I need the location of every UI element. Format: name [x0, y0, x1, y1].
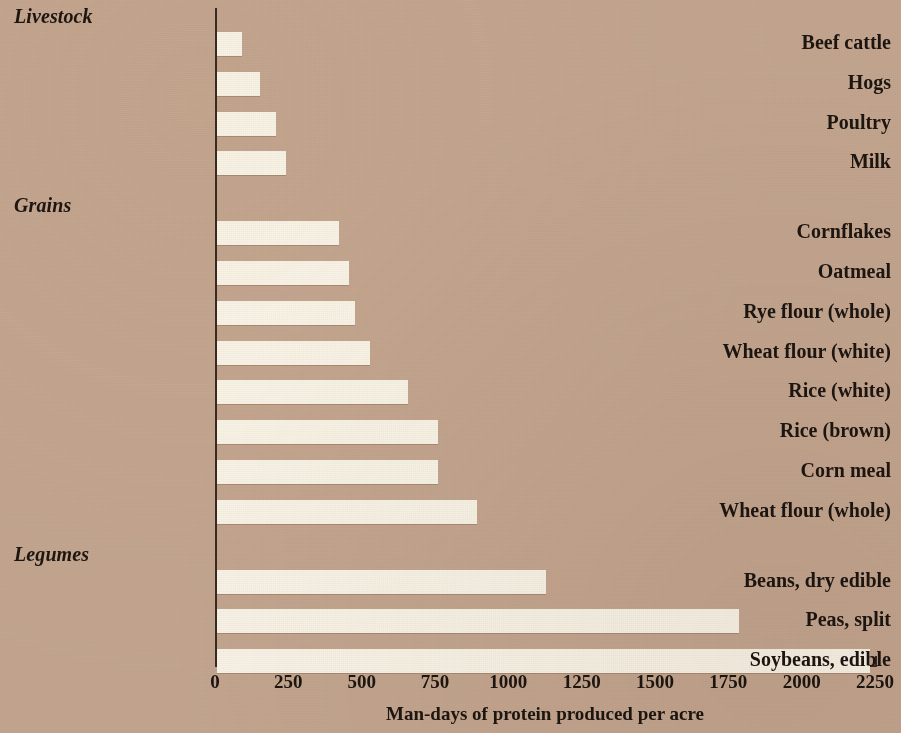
x-axis-tick-label: 1250 [563, 671, 601, 693]
group-header-legumes: Legumes [14, 543, 89, 566]
x-axis-tick-label: 1750 [709, 671, 747, 693]
category-label: Corn meal [696, 459, 901, 482]
category-label: Rye flour (whole) [696, 300, 901, 323]
group-header-livestock: Livestock [14, 5, 93, 28]
category-label: Hogs [696, 71, 901, 94]
category-label: Oatmeal [696, 260, 901, 283]
bar [217, 500, 477, 524]
bar [217, 380, 408, 404]
category-label: Cornflakes [696, 220, 901, 243]
category-label: Rice (brown) [696, 419, 901, 442]
category-label: Poultry [696, 111, 901, 134]
category-label: Rice (white) [696, 379, 901, 402]
bar [217, 420, 438, 444]
bar [217, 570, 546, 594]
y-axis-line [215, 8, 217, 665]
x-axis-tick-label: 2000 [783, 671, 821, 693]
x-axis-tick-label: 0 [210, 671, 220, 693]
category-label: Soybeans, edible [696, 648, 901, 671]
bar [217, 72, 260, 96]
bar [217, 32, 242, 56]
x-axis-tick-label: 2250 [856, 671, 894, 693]
category-label: Peas, split [696, 608, 901, 631]
x-axis-tick-label: 750 [421, 671, 450, 693]
category-label: Wheat flour (whole) [696, 499, 901, 522]
x-axis-tick-label: 1500 [636, 671, 674, 693]
bar [217, 460, 438, 484]
x-axis-tick-label: 1000 [489, 671, 527, 693]
group-header-grains: Grains [14, 194, 71, 217]
x-axis-tick-label: 250 [274, 671, 303, 693]
category-label: Beans, dry edible [696, 569, 901, 592]
bar [217, 151, 286, 175]
bar [217, 609, 739, 633]
x-axis: 0250500750100012501500175020002250 Man-d… [215, 665, 901, 733]
category-label: Wheat flour (white) [696, 340, 901, 363]
category-label: Beef cattle [696, 31, 901, 54]
bar [217, 261, 349, 285]
x-axis-tick-label: 500 [347, 671, 376, 693]
category-label: Milk [696, 150, 901, 173]
x-axis-title: Man-days of protein produced per acre [215, 703, 875, 725]
protein-per-acre-bar-chart: Livestock Grains Legumes Beef cattleHogs… [0, 0, 901, 733]
bar [217, 221, 339, 245]
bar [217, 112, 276, 136]
bar [217, 341, 370, 365]
bar [217, 301, 355, 325]
